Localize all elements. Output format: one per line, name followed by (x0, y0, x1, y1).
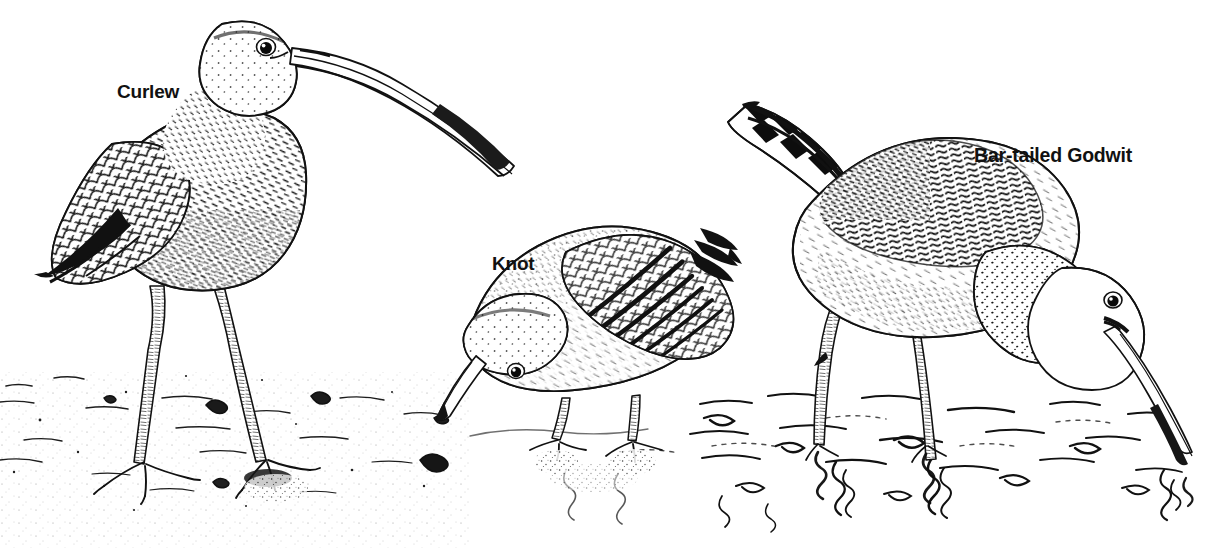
label-knot: Knot (492, 254, 534, 273)
shorebirds-artwork (0, 0, 1205, 548)
label-bar-tailed-godwit: Bar-tailed Godwit (974, 146, 1132, 166)
curlew-eye-icon (257, 39, 276, 56)
godwit-eye-icon (1104, 292, 1122, 308)
illustration-plate: Curlew Knot Bar-tailed Godwit (0, 0, 1205, 548)
knot-eye-icon (508, 364, 525, 379)
label-curlew: Curlew (117, 82, 179, 101)
ground-sand (0, 372, 470, 548)
